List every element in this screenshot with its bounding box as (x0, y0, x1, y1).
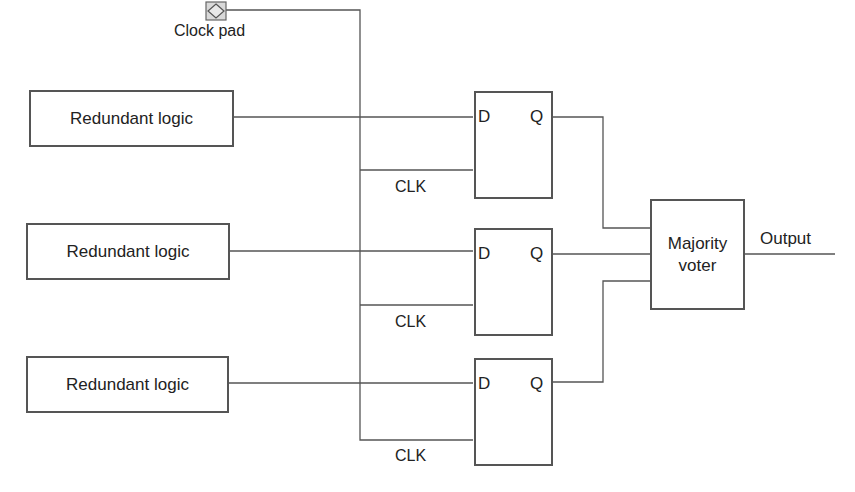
redundant-logic-block-3: Redundant logic (26, 356, 229, 413)
flip-flop-1: D Q (474, 91, 553, 199)
clock-pad-icon (206, 2, 226, 20)
output-label: Output (760, 229, 811, 249)
clk-label-1: CLK (395, 178, 426, 196)
majority-voter: Majority voter (650, 199, 745, 310)
redundant-logic-block-1: Redundant logic (29, 90, 234, 147)
q-pin-label: Q (530, 244, 543, 264)
q-wire-3 (552, 281, 652, 382)
q-wire-1 (552, 117, 652, 228)
clk-label-2: CLK (395, 313, 426, 331)
block-label: Redundant logic (70, 109, 193, 129)
block-label: Redundant logic (66, 375, 189, 395)
flip-flop-3: D Q (474, 358, 553, 466)
d-pin-label: D (478, 374, 490, 394)
clk-label-3: CLK (395, 447, 426, 465)
q-pin-label: Q (530, 374, 543, 394)
d-pin-label: D (478, 244, 490, 264)
redundant-logic-block-2: Redundant logic (26, 223, 230, 280)
q-pin-label: Q (530, 107, 543, 127)
clock-pad-label: Clock pad (174, 22, 245, 40)
block-label: Redundant logic (67, 242, 190, 262)
voter-label-line2: voter (679, 255, 717, 277)
voter-label-line1: Majority (668, 233, 728, 255)
d-pin-label: D (478, 107, 490, 127)
flip-flop-2: D Q (474, 228, 553, 336)
clock-net-wire (226, 10, 473, 440)
